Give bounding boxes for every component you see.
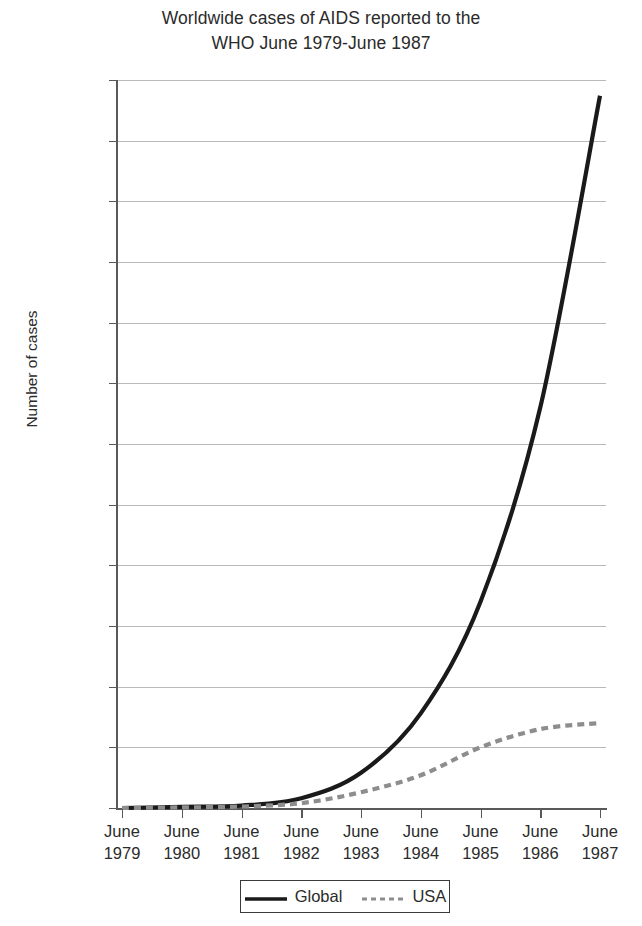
- legend-label: USA: [412, 887, 446, 906]
- y-axis-title: Number of cases: [23, 249, 41, 489]
- y-tick-mark: [109, 141, 116, 142]
- x-tick-label-line: June: [565, 820, 635, 842]
- y-tick-mark: [109, 626, 116, 627]
- x-tick-mark: [361, 809, 362, 818]
- y-tick-mark: [109, 201, 116, 202]
- legend-entry-global: Global: [244, 887, 343, 906]
- series-layer: [116, 80, 606, 809]
- series-line-usa: [122, 723, 600, 808]
- y-tick-mark: [109, 565, 116, 566]
- chart-title-line-2: WHO June 1979-June 1987: [0, 31, 642, 56]
- x-tick-label: June1987: [565, 820, 635, 864]
- chart-figure: Worldwide cases of AIDS reported to the …: [0, 0, 642, 926]
- x-tick-mark: [182, 809, 183, 818]
- y-tick-mark: [109, 383, 116, 384]
- y-tick-mark: [109, 262, 116, 263]
- chart-legend: GlobalUSA: [240, 880, 450, 913]
- series-line-global: [122, 96, 600, 808]
- x-tick-mark: [301, 809, 302, 818]
- x-tick-mark: [421, 809, 422, 818]
- x-tick-label-line: 1987: [565, 842, 635, 864]
- legend-entry-usa: USA: [361, 887, 446, 906]
- y-tick-mark: [109, 80, 116, 81]
- x-tick-mark: [540, 809, 541, 818]
- y-tick-mark: [109, 444, 116, 445]
- x-tick-mark: [122, 809, 123, 818]
- y-tick-mark: [109, 687, 116, 688]
- legend-swatch-global: [244, 891, 288, 903]
- y-tick-mark: [109, 323, 116, 324]
- x-tick-mark: [600, 809, 601, 818]
- x-tick-mark: [242, 809, 243, 818]
- y-tick-mark: [109, 505, 116, 506]
- y-tick-mark: [109, 747, 116, 748]
- legend-swatch-usa: [361, 891, 405, 903]
- chart-title-line-1: Worldwide cases of AIDS reported to the: [0, 6, 642, 31]
- chart-title: Worldwide cases of AIDS reported to the …: [0, 6, 642, 56]
- legend-label: Global: [295, 887, 343, 906]
- x-tick-mark: [481, 809, 482, 818]
- y-tick-mark: [109, 808, 116, 809]
